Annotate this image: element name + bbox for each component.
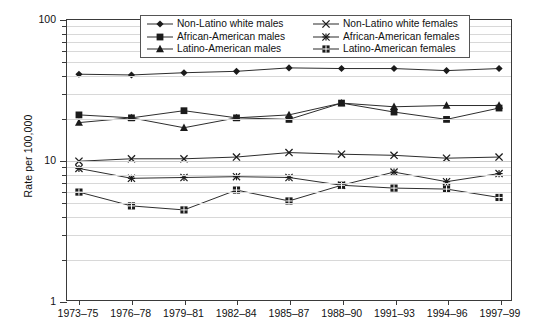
legend-marker-square-icon xyxy=(147,31,173,43)
y-axis-tick xyxy=(62,183,67,184)
x-axis-tick xyxy=(448,300,449,305)
x-axis-tick xyxy=(343,300,344,305)
x-axis-tick xyxy=(396,300,397,305)
legend-item[interactable]: African-American females xyxy=(313,31,460,44)
legend-item[interactable]: Latino-American females xyxy=(313,43,460,56)
x-axis-tick xyxy=(501,300,502,305)
data-point-diamond xyxy=(233,68,240,75)
data-point-star xyxy=(322,33,329,40)
y-axis-tick xyxy=(62,26,67,27)
data-point-diamond xyxy=(128,71,135,78)
x-axis-tick xyxy=(132,300,133,305)
legend-item-label: Latino-American females xyxy=(339,43,456,56)
gridline xyxy=(67,161,511,162)
x-axis-tick-label: 1973–75 xyxy=(58,307,99,319)
y-axis-tick xyxy=(62,34,67,35)
legend-marker-star-icon xyxy=(313,31,339,43)
series-line xyxy=(79,153,499,162)
legend: Non-Latino white malesAfrican-American m… xyxy=(140,15,470,58)
legend-item-label: Non-Latino white females xyxy=(339,18,458,31)
data-point-diamond xyxy=(156,21,163,28)
y-axis-tick xyxy=(60,161,67,162)
series-5 xyxy=(75,182,502,214)
y-axis-tick xyxy=(62,167,67,168)
legend-marker-triangle-icon xyxy=(147,43,173,55)
y-axis-tick xyxy=(60,302,67,303)
legend-item[interactable]: Non-Latino white females xyxy=(313,18,460,31)
data-point-sqdot xyxy=(322,46,329,53)
gridline xyxy=(67,183,511,184)
legend-column-left: Non-Latino white malesAfrican-American m… xyxy=(147,18,285,56)
x-axis-tick-label: 1994–96 xyxy=(427,307,468,319)
data-point-square xyxy=(181,107,188,114)
y-axis-tick xyxy=(62,51,67,52)
data-point-diamond xyxy=(443,67,450,74)
y-axis-tick xyxy=(60,20,67,21)
data-point-star xyxy=(495,170,502,177)
data-point-sqdot xyxy=(180,206,187,213)
gridline xyxy=(67,62,511,63)
y-axis-tick xyxy=(62,175,67,176)
legend-marker-xcross-icon xyxy=(313,18,339,30)
series-4 xyxy=(75,165,502,189)
y-axis-tick xyxy=(62,119,67,120)
gridline xyxy=(67,167,511,168)
y-axis-tick xyxy=(62,42,67,43)
x-axis-tick xyxy=(185,300,186,305)
legend-item-label: Latino-American males xyxy=(173,43,281,56)
x-axis-tick xyxy=(237,300,238,305)
gridline xyxy=(67,203,511,204)
data-point-triangle xyxy=(156,45,164,52)
gridline xyxy=(67,260,511,261)
data-point-diamond xyxy=(338,65,345,72)
x-axis-tick-label: 1979–81 xyxy=(163,307,204,319)
gridline xyxy=(67,217,511,218)
data-point-sqdot xyxy=(390,185,397,192)
series-2 xyxy=(75,99,503,131)
x-axis-tick-label: 1988–90 xyxy=(321,307,362,319)
gridline xyxy=(67,192,511,193)
gridline xyxy=(67,175,511,176)
x-axis-tick-label: 1997–99 xyxy=(480,307,521,319)
y-axis-tick xyxy=(62,203,67,204)
gridline xyxy=(67,94,511,95)
data-point-diamond xyxy=(495,65,502,72)
legend-item[interactable]: Latino-American males xyxy=(147,43,285,56)
legend-item-label: African-American males xyxy=(173,31,285,44)
x-axis-tick xyxy=(79,300,80,305)
x-axis-tick xyxy=(290,300,291,305)
y-axis-tick xyxy=(62,260,67,261)
y-axis-tick-label: 100 xyxy=(0,13,56,25)
data-point-star xyxy=(128,175,135,182)
y-axis-tick xyxy=(62,94,67,95)
legend-column-right: Non-Latino white femalesAfrican-American… xyxy=(313,18,460,56)
data-point-xcross xyxy=(322,21,329,28)
legend-marker-sqdot-icon xyxy=(313,43,339,55)
gridline xyxy=(67,119,511,120)
y-axis-tick-label: 10 xyxy=(0,154,56,166)
y-axis-tick-label: 1 xyxy=(0,295,56,307)
x-axis-tick-label: 1985–87 xyxy=(269,307,310,319)
y-axis-tick xyxy=(62,62,67,63)
data-point-square xyxy=(157,33,164,40)
x-axis-tick-label: 1976–78 xyxy=(110,307,151,319)
data-point-star xyxy=(75,165,82,172)
line-chart: Rate per 100,000 100101 1973–751976–7819… xyxy=(0,0,548,333)
y-axis-tick xyxy=(62,217,67,218)
legend-marker-diamond-icon xyxy=(147,18,173,30)
legend-item-label: African-American females xyxy=(339,31,460,44)
data-point-diamond xyxy=(285,64,292,71)
data-point-diamond xyxy=(390,65,397,72)
legend-item[interactable]: Non-Latino white males xyxy=(147,18,285,31)
data-point-sqdot xyxy=(495,194,502,201)
data-point-square xyxy=(76,112,83,119)
legend-item[interactable]: African-American males xyxy=(147,31,285,44)
plot-area xyxy=(66,19,512,301)
y-axis-tick xyxy=(62,235,67,236)
x-axis-tick-label: 1991–93 xyxy=(374,307,415,319)
y-axis-tick xyxy=(62,192,67,193)
series-3 xyxy=(75,149,502,165)
data-point-star xyxy=(443,178,450,185)
legend-item-label: Non-Latino white males xyxy=(173,18,283,31)
gridline xyxy=(67,76,511,77)
